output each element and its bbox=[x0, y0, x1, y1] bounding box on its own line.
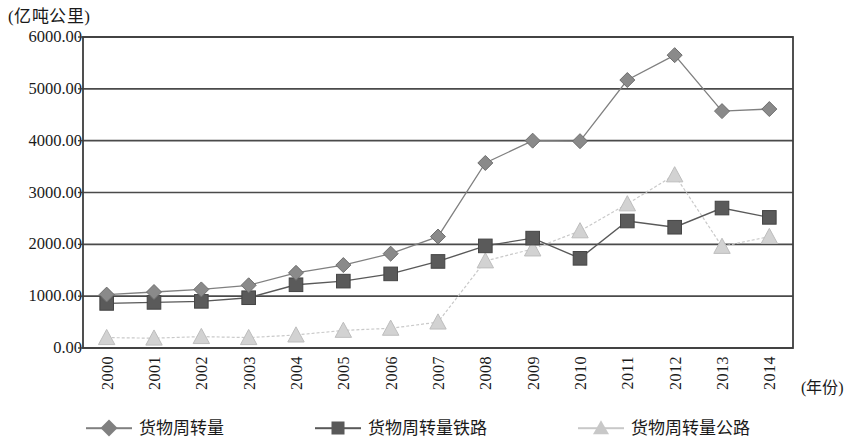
data-point-square bbox=[479, 239, 493, 253]
legend-label: 货物周转量铁路 bbox=[368, 420, 487, 437]
x-axis-tick-2008: 2008 bbox=[477, 356, 495, 390]
x-axis-tick-2005: 2005 bbox=[335, 356, 353, 390]
x-axis-tick-2013: 2013 bbox=[714, 356, 732, 390]
legend-label: 货物周转量公路 bbox=[631, 420, 750, 437]
x-axis-tick-2003: 2003 bbox=[241, 356, 259, 390]
x-axis-tick-2004: 2004 bbox=[288, 356, 306, 390]
x-axis-tick-2000: 2000 bbox=[99, 356, 117, 390]
legend-swatch-diamond-marker bbox=[86, 420, 132, 436]
legend-swatch-square-marker bbox=[315, 420, 361, 436]
x-axis-tick-2001: 2001 bbox=[146, 356, 164, 390]
legend-item-2[interactable]: 货物周转量铁路 bbox=[315, 420, 487, 437]
legend-item-1[interactable]: 货物周转量 bbox=[86, 420, 224, 437]
x-axis-tick-2011: 2011 bbox=[619, 356, 637, 389]
data-point-square bbox=[715, 201, 729, 215]
data-point-square bbox=[431, 255, 445, 269]
square-marker bbox=[331, 422, 344, 435]
data-point-square bbox=[573, 252, 587, 266]
data-point-square bbox=[763, 211, 777, 225]
x-axis-tick-2012: 2012 bbox=[667, 356, 685, 390]
data-point-square bbox=[621, 214, 635, 228]
x-axis-tick-2010: 2010 bbox=[572, 356, 590, 390]
data-point-square bbox=[384, 267, 398, 281]
x-axis-tick-2007: 2007 bbox=[430, 356, 448, 390]
legend-label: 货物周转量 bbox=[139, 420, 224, 437]
chart-legend: 货物周转量货物周转量铁路货物周转量公路 bbox=[0, 408, 836, 448]
legend-swatch-triangle-marker bbox=[578, 420, 624, 436]
x-axis-title: (年份) bbox=[801, 374, 844, 398]
x-axis-tick-2009: 2009 bbox=[525, 356, 543, 390]
triangle-marker bbox=[593, 420, 609, 434]
data-point-square bbox=[668, 220, 682, 234]
x-axis-tick-2014: 2014 bbox=[761, 356, 779, 390]
x-axis-tick-2002: 2002 bbox=[193, 356, 211, 390]
diamond-marker bbox=[100, 420, 117, 437]
data-point-square bbox=[526, 231, 540, 245]
data-point-square bbox=[337, 274, 351, 288]
legend-item-3[interactable]: 货物周转量公路 bbox=[578, 420, 750, 437]
x-axis-tick-2006: 2006 bbox=[383, 356, 401, 390]
